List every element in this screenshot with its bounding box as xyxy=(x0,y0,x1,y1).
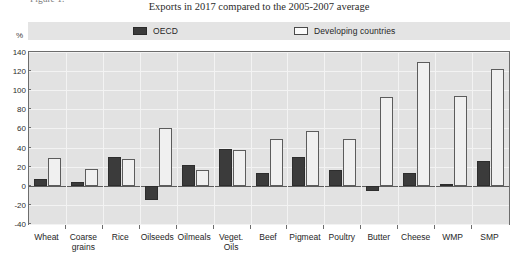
bar-oecd xyxy=(292,157,305,186)
legend-swatch-developing-icon xyxy=(294,27,308,35)
y-tick-label: 140 xyxy=(4,48,26,57)
x-category-label: Cheese xyxy=(401,232,430,242)
legend-label-oecd: OECD xyxy=(153,26,178,36)
x-tick-mark xyxy=(176,225,177,229)
bar-dev xyxy=(196,170,209,186)
y-tick-label: 20 xyxy=(4,162,26,171)
x-gridline xyxy=(177,52,178,224)
x-category-label: Pigmeat xyxy=(289,232,320,242)
y-tick-mark xyxy=(28,51,31,52)
y-gridline xyxy=(29,109,509,110)
x-gridline xyxy=(472,52,473,224)
x-tick-mark xyxy=(323,225,324,229)
x-tick-mark xyxy=(213,225,214,229)
bar-dev xyxy=(122,159,135,186)
bar-dev xyxy=(454,96,467,186)
legend-swatch-oecd-icon xyxy=(133,27,147,35)
bar-oecd xyxy=(366,186,379,191)
bar-dev xyxy=(159,128,172,185)
x-tick-mark xyxy=(102,225,103,229)
x-gridline xyxy=(398,52,399,224)
zero-baseline xyxy=(29,186,509,187)
plot-area xyxy=(28,51,510,225)
x-gridline xyxy=(103,52,104,224)
y-tick-label: 80 xyxy=(4,105,26,114)
x-category-label: Veget. Oils xyxy=(219,232,243,252)
bar-dev xyxy=(306,131,319,185)
y-tick-label: -40 xyxy=(4,220,26,229)
x-gridline xyxy=(140,52,141,224)
y-tick-label: 0 xyxy=(4,181,26,190)
x-category-label: SMP xyxy=(480,232,498,242)
y-tick-label: 60 xyxy=(4,124,26,133)
bar-oecd xyxy=(440,184,453,186)
x-gridline xyxy=(287,52,288,224)
x-tick-mark xyxy=(434,225,435,229)
y-tick-label: 40 xyxy=(4,143,26,152)
y-tick-mark xyxy=(28,204,31,205)
x-tick-mark xyxy=(139,225,140,229)
x-gridline xyxy=(251,52,252,224)
x-tick-mark xyxy=(286,225,287,229)
bar-oecd xyxy=(329,170,342,186)
x-gridline xyxy=(361,52,362,224)
x-category-label: Butter xyxy=(367,232,390,242)
legend-item-developing-countries: Developing countries xyxy=(294,25,395,37)
bar-oecd xyxy=(219,149,232,186)
bar-oecd xyxy=(145,186,158,200)
bar-oecd xyxy=(182,165,195,186)
bar-oecd xyxy=(108,157,121,186)
y-axis-unit-label: % xyxy=(16,31,23,40)
x-category-label: Wheat xyxy=(34,232,59,242)
chart-figure: Figure 1. Exports in 2017 compared to th… xyxy=(0,0,518,265)
y-gridline xyxy=(29,90,509,91)
bar-oecd xyxy=(403,173,416,185)
x-category-label: Poultry xyxy=(329,232,355,242)
x-category-label: Rice xyxy=(112,232,129,242)
y-gridline xyxy=(29,71,509,72)
bar-dev xyxy=(48,158,61,186)
bar-oecd xyxy=(71,182,84,186)
y-tick-mark xyxy=(28,70,31,71)
y-tick-label: 120 xyxy=(4,67,26,76)
x-tick-mark xyxy=(360,225,361,229)
bar-oecd xyxy=(477,161,490,186)
y-axis: -40-20020406080100120140 xyxy=(0,51,26,225)
bar-oecd xyxy=(34,179,47,186)
x-category-label: Oilmeals xyxy=(178,232,211,242)
y-tick-mark xyxy=(28,185,31,186)
y-gridline xyxy=(29,128,509,129)
y-tick-mark xyxy=(28,147,31,148)
x-gridline xyxy=(66,52,67,224)
x-category-label: WMP xyxy=(442,232,463,242)
legend-item-oecd: OECD xyxy=(133,25,178,37)
chart-title: Exports in 2017 compared to the 2005-200… xyxy=(0,1,518,12)
bar-dev xyxy=(85,169,98,186)
y-tick-mark xyxy=(28,108,31,109)
y-gridline xyxy=(29,205,509,206)
x-tick-mark xyxy=(471,225,472,229)
x-category-label: Beef xyxy=(259,232,277,242)
x-tick-mark xyxy=(250,225,251,229)
y-tick-label: -20 xyxy=(4,200,26,209)
y-tick-mark xyxy=(28,127,31,128)
bar-dev xyxy=(270,139,283,186)
y-tick-mark xyxy=(28,89,31,90)
y-gridline xyxy=(29,52,509,53)
chart-legend: OECD Developing countries xyxy=(28,22,510,40)
y-tick-mark xyxy=(28,166,31,167)
x-category-label: Coarse grains xyxy=(70,232,97,252)
x-gridline xyxy=(214,52,215,224)
x-gridline xyxy=(324,52,325,224)
bar-dev xyxy=(380,97,393,186)
x-tick-mark xyxy=(397,225,398,229)
bar-dev xyxy=(343,139,356,186)
y-tick-label: 100 xyxy=(4,86,26,95)
bar-dev xyxy=(233,150,246,185)
x-category-label: Oilseeds xyxy=(141,232,174,242)
x-tick-mark xyxy=(65,225,66,229)
x-gridline xyxy=(435,52,436,224)
legend-label-developing-countries: Developing countries xyxy=(314,26,395,36)
bar-oecd xyxy=(256,173,269,185)
y-tick-mark xyxy=(28,223,31,224)
